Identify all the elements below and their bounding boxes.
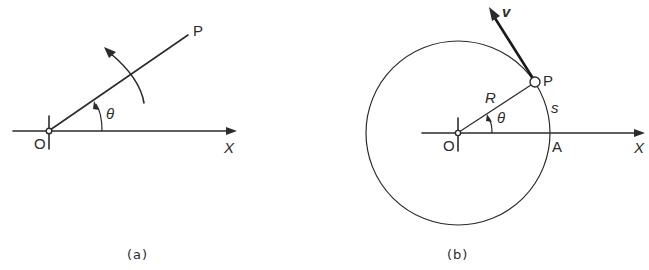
axis-intersection-label-a: A [552,138,562,155]
angle-label-theta-a: θ [106,105,114,122]
axis-label-x-b: X [633,139,645,156]
arc-length-label-s: s [551,99,559,116]
velocity-vector-b [493,15,534,80]
velocity-label-v: v [502,3,512,20]
origin-label-o-b: O [443,137,455,154]
velocity-arrowhead-icon [489,7,500,21]
radial-line-op-a [50,35,188,130]
rotation-arc-a [110,53,144,103]
caption-a: (a) [127,247,148,262]
angle-label-theta-b: θ [497,109,505,126]
theta-arrowhead-b [486,114,492,122]
x-axis-arrowhead-a [226,127,237,135]
panel-b: v P R s θ O A X (b) [366,3,645,262]
origin-node-a [46,128,52,134]
caption-b: (b) [447,247,468,262]
point-label-p-a: P [193,22,203,39]
point-label-p-b: P [543,72,553,89]
point-node-p-b [530,77,540,87]
axis-label-x-a: X [223,139,235,156]
radius-label-r: R [485,89,496,106]
panel-a: P O X θ (a) [13,22,237,262]
x-axis-arrowhead-b [634,129,645,137]
origin-label-o-a: O [34,135,46,152]
origin-node-b [455,130,460,135]
angular-motion-figure: P O X θ (a) v P R s θ O A X [0,0,649,270]
theta-arrowhead-a [93,101,99,110]
